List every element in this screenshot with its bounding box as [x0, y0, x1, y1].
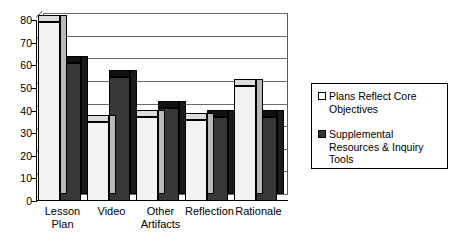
bar-side-face: [256, 79, 263, 194]
bar-top-face: [109, 70, 131, 77]
bar-series-container: [36, 20, 288, 201]
legend-entry-supplemental-resources-inquiry-tools: Supplemental Resources & Inquiry Tools: [318, 128, 442, 166]
bar-plans-reflect-core-objectives: [38, 22, 60, 201]
legend: Plans Reflect Core Objectives Supplement…: [311, 83, 448, 169]
bar-plans-reflect-core-objectives: [136, 117, 158, 201]
y-axis-labels: 01020304050607080: [0, 20, 32, 201]
bar-side-face: [277, 110, 284, 194]
bar-side-face: [60, 15, 67, 194]
x-axis-labels: Lesson PlanVideoOther ArtifactsReflectio…: [36, 205, 288, 245]
legend-entry-label: Plans Reflect Core Objectives: [329, 90, 442, 115]
bar-side-face: [130, 70, 137, 194]
bar-front-face: [185, 120, 207, 201]
bar-side-face: [179, 101, 186, 194]
bar-side-face: [228, 110, 235, 194]
bar-front-face: [87, 122, 109, 201]
bar-side-face: [158, 110, 165, 194]
filled-square-swatch-icon: [318, 130, 326, 138]
y-axis-tick: [31, 201, 37, 202]
bar-front-face: [136, 117, 158, 201]
gridline: [43, 13, 288, 14]
open-square-swatch-icon: [318, 92, 326, 100]
bar-top-face: [158, 101, 180, 108]
bar-side-face: [207, 113, 214, 194]
bar-top-face: [136, 110, 158, 117]
bar-top-face: [185, 113, 207, 120]
legend-entry-plans-reflect-core-objectives: Plans Reflect Core Objectives: [318, 90, 442, 115]
bar-side-face: [81, 56, 88, 194]
bar-top-face: [234, 79, 256, 86]
bar-plans-reflect-core-objectives: [234, 86, 256, 201]
bar-side-face: [109, 115, 116, 194]
plot-area: [36, 20, 288, 201]
bar-top-face: [38, 15, 60, 22]
bar-plans-reflect-core-objectives: [185, 120, 207, 201]
legend-entry-label: Supplemental Resources & Inquiry Tools: [329, 128, 442, 166]
bar-chart-figure: 01020304050607080 Lesson PlanVideoOther …: [0, 0, 464, 247]
x-axis-tick-label: Rationale: [226, 205, 291, 218]
bar-plans-reflect-core-objectives: [87, 122, 109, 201]
bar-front-face: [38, 22, 60, 201]
bar-top-face: [87, 115, 109, 122]
bar-front-face: [234, 86, 256, 201]
